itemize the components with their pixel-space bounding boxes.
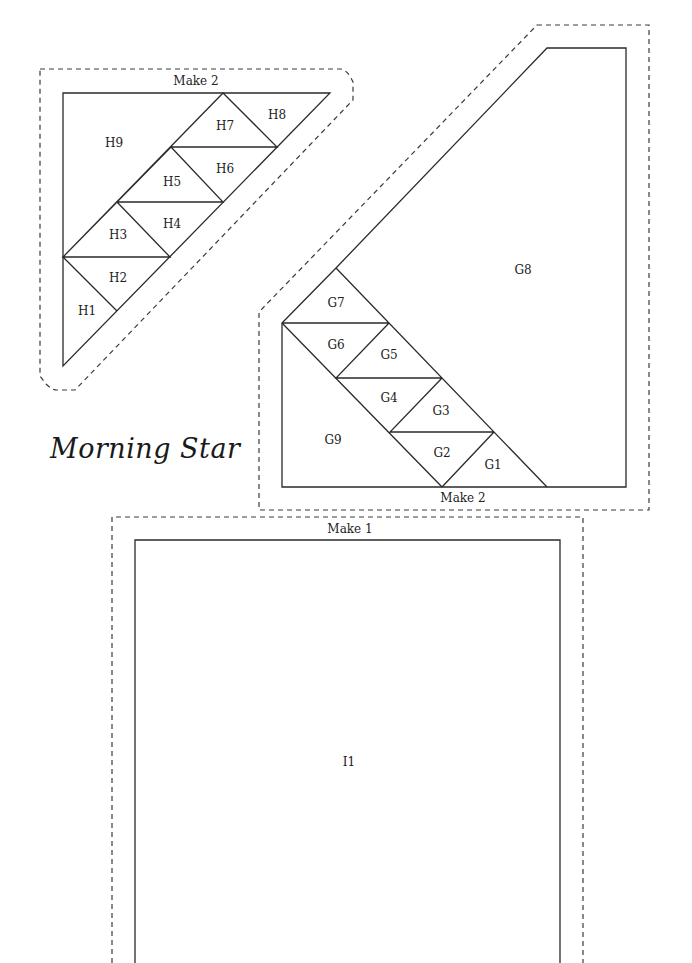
- piece-h9: H9: [105, 136, 123, 150]
- block-i-outline: [135, 540, 560, 963]
- block-g-seams: [282, 268, 547, 487]
- block-h-outline: [63, 93, 330, 366]
- piece-h5: H5: [163, 175, 181, 189]
- block-h-make-label: Make 2: [173, 74, 218, 88]
- piece-h1: H1: [78, 304, 96, 318]
- block-g-outline: [282, 48, 626, 487]
- piece-g5: G5: [380, 348, 397, 362]
- piece-g2: G2: [433, 446, 450, 460]
- piece-g3: G3: [432, 404, 449, 418]
- block-g: Make 2 G1 G2 G3 G4 G5 G6 G7 G8 G9: [259, 25, 649, 510]
- block-i: Make 1 I1: [112, 517, 583, 963]
- block-i-cut-line: [112, 517, 583, 963]
- piece-g7: G7: [327, 296, 344, 310]
- pattern-canvas: Make 2 H1 H2 H3 H4 H5 H6 H7 H8 H9 Make 2…: [0, 0, 692, 963]
- piece-h2: H2: [109, 271, 127, 285]
- piece-h4: H4: [163, 217, 181, 231]
- piece-g1: G1: [484, 458, 501, 472]
- block-g-make-label: Make 2: [440, 491, 485, 505]
- pattern-title: Morning Star: [49, 433, 242, 464]
- piece-i1: I1: [343, 755, 355, 769]
- block-g-cut-line: [259, 25, 649, 510]
- piece-g6: G6: [327, 338, 344, 352]
- piece-h8: H8: [268, 108, 286, 122]
- piece-h3: H3: [109, 228, 127, 242]
- piece-g9: G9: [324, 433, 341, 447]
- piece-h6: H6: [216, 162, 234, 176]
- piece-h7: H7: [216, 119, 234, 133]
- piece-g8: G8: [514, 263, 531, 277]
- block-h-seams: [63, 93, 277, 311]
- piece-g4: G4: [380, 391, 398, 405]
- block-i-make-label: Make 1: [327, 522, 372, 536]
- block-h: Make 2 H1 H2 H3 H4 H5 H6 H7 H8 H9: [40, 69, 353, 390]
